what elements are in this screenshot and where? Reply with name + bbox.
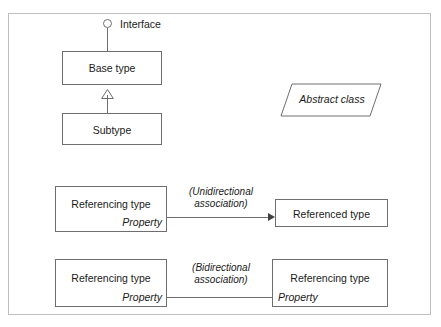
class-box-referenced-type[interactable]: Referenced type <box>275 199 388 227</box>
unidirectional-association-label-line2: association) <box>176 198 266 210</box>
unidirectional-arrowhead-icon <box>268 213 275 221</box>
class-box-title: Referencing type <box>56 272 166 284</box>
bidirectional-association-label-line2: association) <box>176 274 266 286</box>
class-box-title: Base type <box>63 62 161 74</box>
interface-connector-line <box>107 28 108 51</box>
inheritance-triangle-icon <box>101 85 114 95</box>
class-box-title: Referencing type <box>56 198 166 210</box>
class-box-property: Property <box>278 291 318 303</box>
class-box-property: Property <box>122 216 162 228</box>
class-box-referencing-type-bidirectional-left[interactable]: Referencing type Property <box>55 259 167 307</box>
bidirectional-association-label: (Bidirectional association) <box>176 262 266 285</box>
class-box-title: Subtype <box>63 124 161 136</box>
unidirectional-association-label-line1: (Unidirectional <box>176 186 266 198</box>
class-box-title: Referenced type <box>276 208 387 220</box>
class-box-referencing-type-bidirectional-right[interactable]: Referencing type Property <box>272 259 388 307</box>
class-box-base-type[interactable]: Base type <box>62 51 162 85</box>
unidirectional-association-label: (Unidirectional association) <box>176 186 266 209</box>
interface-label: Interface <box>120 18 161 30</box>
uml-notation-diagram: Interface Base type Subtype Abstract cla… <box>0 0 441 327</box>
unidirectional-association-line <box>167 217 268 218</box>
inheritance-connector-line <box>107 95 108 113</box>
abstract-class-label: Abstract class <box>296 93 368 105</box>
class-box-referencing-type-unidirectional[interactable]: Referencing type Property <box>55 186 167 232</box>
class-box-subtype[interactable]: Subtype <box>62 113 162 145</box>
bidirectional-association-label-line1: (Bidirectional <box>176 262 266 274</box>
bidirectional-association-line <box>167 297 273 298</box>
class-box-property: Property <box>122 291 162 303</box>
interface-lollipop-icon <box>103 19 112 28</box>
class-box-title: Referencing type <box>273 272 387 284</box>
